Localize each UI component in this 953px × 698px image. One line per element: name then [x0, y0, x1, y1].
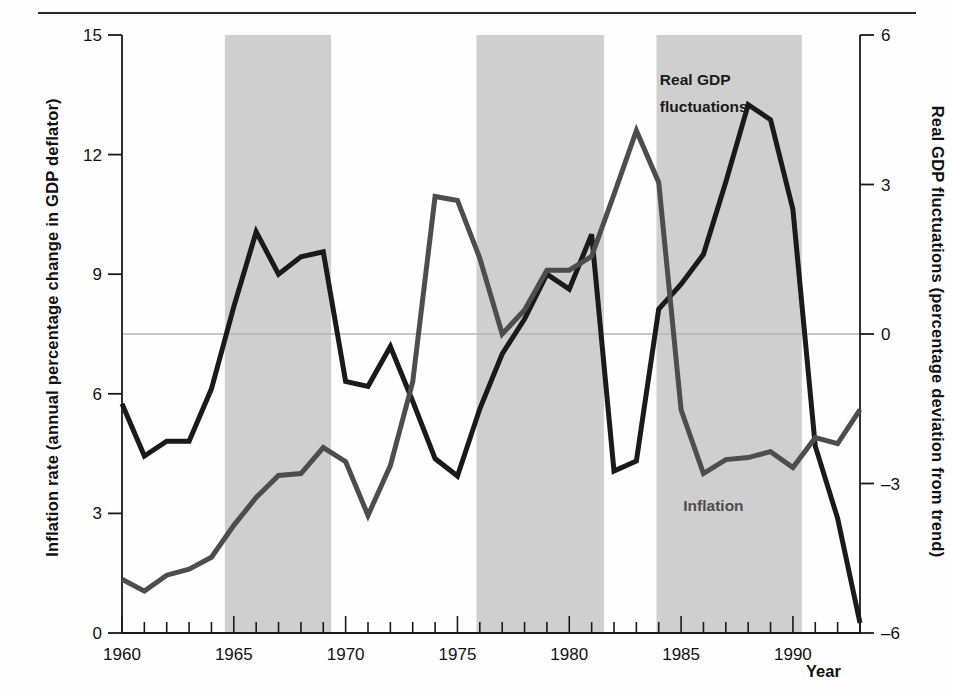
x-tick-label: 1970 [327, 645, 365, 664]
y-left-tick-label: 6 [93, 385, 102, 404]
y-left-tick-label: 3 [93, 504, 102, 523]
y-right-tick-label: –6 [881, 624, 900, 643]
y-left-tick-label: 15 [83, 26, 102, 45]
y-right-tick-label: 0 [881, 325, 890, 344]
real-gdp-label-2: fluctuations [660, 98, 748, 115]
y-right-tick-label: –3 [881, 475, 900, 494]
y-left-tick-label: 0 [93, 624, 102, 643]
y-left-tick-label: 9 [93, 265, 102, 284]
y-left-tick-label: 12 [83, 146, 102, 165]
x-tick-label: 1965 [215, 645, 253, 664]
plot-canvas: 03691215–6–30361960196519701975198019851… [0, 0, 953, 698]
x-tick-label: 1990 [774, 645, 812, 664]
x-tick-label: 1985 [662, 645, 700, 664]
y-right-tick-label: 6 [881, 26, 890, 45]
x-tick-label: 1980 [550, 645, 588, 664]
inflation-label: Inflation [683, 497, 743, 514]
chart-figure: Inflation rate (annual percentage change… [0, 0, 953, 698]
real-gdp-label: Real GDP [660, 71, 731, 88]
y-right-tick-label: 3 [881, 176, 890, 195]
x-tick-label: 1975 [439, 645, 477, 664]
x-tick-label: 1960 [103, 645, 141, 664]
